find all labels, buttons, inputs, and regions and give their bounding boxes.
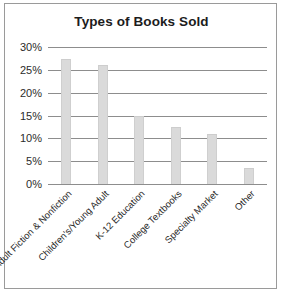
plot-area: 30%25%20%15%10%5%0% Adult Fiction & Nonf…	[48, 47, 267, 184]
x-axis-tick-label-text: Other	[232, 188, 257, 213]
y-axis-tick-label: 20%	[0, 87, 42, 99]
y-axis-tick-label: 30%	[0, 41, 42, 53]
gridline	[48, 93, 267, 94]
chart-title: Types of Books Sold	[5, 14, 278, 29]
gridline	[48, 70, 267, 71]
bar	[244, 168, 254, 184]
y-axis-tick-label: 10%	[0, 132, 42, 144]
chart-frame: Types of Books Sold 30%25%20%15%10%5%0% …	[4, 3, 277, 289]
y-axis-tick-label: 15%	[0, 110, 42, 122]
gridline	[48, 116, 267, 117]
gridline	[48, 161, 267, 162]
bar	[61, 59, 71, 184]
y-axis-tick-label: 25%	[0, 64, 42, 76]
x-axis-tick-label-text: Children's/Young Adult	[36, 188, 111, 263]
y-axis-tick-label: 0%	[0, 178, 42, 190]
gridline	[48, 47, 267, 48]
y-axis-tick-label: 5%	[0, 155, 42, 167]
